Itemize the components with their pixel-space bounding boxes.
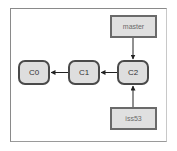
commit-node-c0: C0 xyxy=(18,60,50,85)
branch-label: iss53 xyxy=(125,115,141,122)
branch-pointer-master: master xyxy=(110,15,157,38)
commit-label: C1 xyxy=(79,68,89,77)
branch-label: master xyxy=(123,23,144,30)
commit-node-c1: C1 xyxy=(68,60,100,85)
commit-label: C2 xyxy=(128,68,138,77)
branch-pointer-iss53: iss53 xyxy=(110,107,157,130)
commit-node-c2: C2 xyxy=(117,60,149,85)
commit-label: C0 xyxy=(29,68,39,77)
